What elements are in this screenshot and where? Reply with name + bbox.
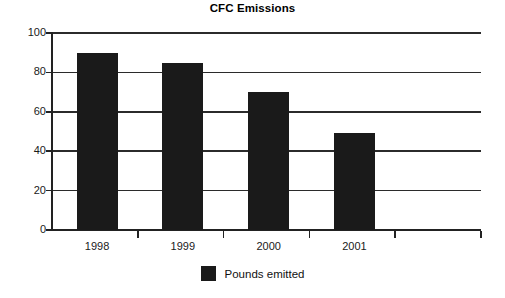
chart-title: CFC Emissions bbox=[0, 2, 505, 14]
x-tick-mark bbox=[137, 231, 139, 238]
x-tick-label-1999: 1999 bbox=[153, 240, 213, 252]
x-tick-mark bbox=[394, 231, 396, 238]
bar-fill bbox=[334, 133, 375, 230]
plot-area bbox=[52, 33, 480, 230]
x-tick-label-2000: 2000 bbox=[239, 240, 299, 252]
bar-1999 bbox=[162, 63, 203, 230]
legend-item: Pounds emitted bbox=[201, 266, 305, 281]
bar-2001 bbox=[334, 133, 375, 230]
x-tick-mark bbox=[309, 231, 311, 238]
x-tick-label-2001: 2001 bbox=[324, 240, 384, 252]
x-tick-mark bbox=[480, 231, 482, 238]
legend-label: Pounds emitted bbox=[225, 268, 305, 280]
x-tick-label-1998: 1998 bbox=[67, 240, 127, 252]
bar-fill bbox=[162, 63, 203, 230]
legend-swatch bbox=[201, 266, 216, 281]
bar-fill bbox=[77, 53, 118, 230]
y-tick-label: 60 bbox=[6, 105, 46, 117]
bar-fill bbox=[248, 92, 289, 230]
x-tick-mark bbox=[223, 231, 225, 238]
y-tick-label: 0 bbox=[6, 223, 46, 235]
y-tick-label: 80 bbox=[6, 65, 46, 77]
y-tick-label: 40 bbox=[6, 144, 46, 156]
chart-legend: Pounds emitted bbox=[0, 266, 505, 281]
y-tick-label: 20 bbox=[6, 184, 46, 196]
bar-2000 bbox=[248, 92, 289, 230]
cfc-emissions-bar-chart: CFC Emissions 020406080100 1998199920002… bbox=[0, 0, 505, 298]
bar-1998 bbox=[77, 53, 118, 230]
y-tick-label: 100 bbox=[6, 26, 46, 38]
